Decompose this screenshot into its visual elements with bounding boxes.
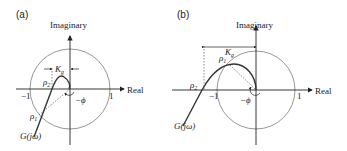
panel-label: (a)	[16, 9, 28, 20]
nyquist-figure: (a) Imaginary Real −1 1 Kg −ϕ ρ2 ρ1 G(jω…	[0, 0, 347, 151]
phi-label: −ϕ	[75, 95, 86, 105]
curve-label: G(jω)	[174, 121, 195, 131]
kg-label: Kg	[54, 64, 64, 75]
imaginary-label: Imaginary	[50, 20, 87, 30]
tick-minus-one: −1	[21, 91, 31, 101]
real-label: Real	[127, 85, 144, 95]
phi-label: −ϕ	[240, 95, 251, 105]
panel-a: (a) Imaginary Real −1 1 Kg −ϕ ρ2 ρ1 G(jω…	[16, 9, 144, 145]
nyquist-curve	[34, 76, 70, 137]
rho2-label: ρ2	[189, 80, 197, 91]
real-label: Real	[315, 86, 332, 96]
panel-b: (b) Imaginary Real −1 1 Kg −ϕ ρ2 ρ1 G(jω…	[172, 9, 332, 145]
tick-one: 1	[109, 91, 114, 101]
phase-arc	[250, 87, 260, 95]
rho1-label: ρ1	[29, 111, 37, 122]
tick-minus-one: −1	[209, 91, 219, 101]
tick-one: 1	[297, 91, 302, 101]
kg-label: Kg	[224, 47, 234, 58]
imaginary-label: Imaginary	[236, 20, 273, 30]
phase-arc	[65, 92, 74, 95]
rho2-label: ρ2	[42, 77, 50, 88]
panel-label: (b)	[177, 9, 189, 20]
radius-line	[230, 65, 255, 89]
curve-label: G(jω)	[20, 131, 41, 141]
